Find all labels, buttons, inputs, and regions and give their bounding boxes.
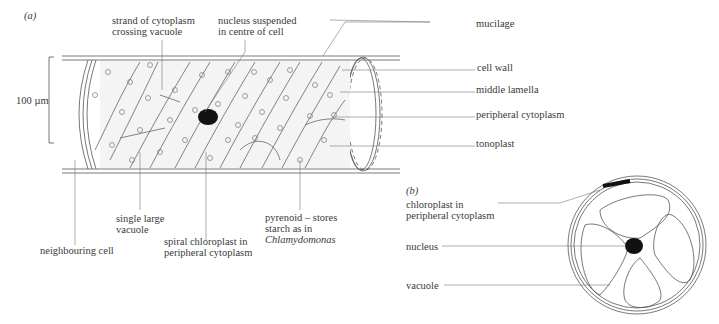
label-pyrenoid: pyrenoid – stores starch as in Chlamydom… <box>265 212 337 245</box>
panel-label-b: (b) <box>406 185 418 196</box>
label-tonoplast: tonoplast <box>476 138 515 149</box>
label-peripheral-cytoplasm: peripheral cytoplasm <box>476 109 564 120</box>
label-nucleus-suspended: nucleus suspended in centre of cell <box>218 15 296 37</box>
label-strand-of-cytoplasm: strand of cytoplasm crossing vacuole <box>112 15 195 37</box>
nucleus-b <box>625 238 643 254</box>
filament-cell-drawing <box>62 56 400 173</box>
nucleus-a <box>198 109 218 125</box>
scale-bar-label: 100 µm <box>16 95 49 106</box>
scale-bar <box>49 57 54 143</box>
chloroplast-b <box>603 181 630 186</box>
label-vacuole-b: vacuole <box>406 280 439 291</box>
label-middle-lamella: middle lamella <box>476 84 539 95</box>
label-spiral-chloroplast: spiral chloroplast in peripheral cytopla… <box>164 236 252 258</box>
label-cell-wall: cell wall <box>477 62 513 73</box>
label-single-large-vacuole: single large vacuole <box>116 213 165 235</box>
label-neighbouring-cell: neighbouring cell <box>40 245 114 256</box>
label-nucleus-b: nucleus <box>406 241 438 252</box>
cross-section-drawing <box>442 176 706 314</box>
label-chloroplast-b: chloroplast in peripheral cytoplasm <box>406 199 494 221</box>
panel-label-a: (a) <box>24 10 36 21</box>
label-mucilage: mucilage <box>476 18 514 29</box>
spirogyra-diagram <box>0 0 719 324</box>
